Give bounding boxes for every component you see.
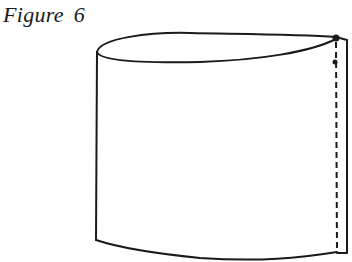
top-opening-back-edge [97, 33, 336, 52]
cylinder-drawing [0, 0, 352, 262]
right-fold-edge [336, 37, 347, 253]
seam-corner-dot [333, 35, 340, 42]
left-side-edge [96, 52, 97, 240]
seam-marker-dot [333, 60, 338, 65]
top-opening-front-edge [97, 39, 336, 62]
seam-dashed-line [336, 42, 337, 252]
bottom-edge [96, 240, 337, 260]
